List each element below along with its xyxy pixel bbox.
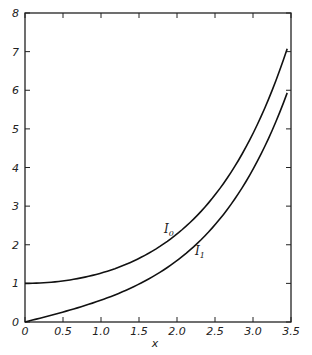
- series-label-i0: I0: [163, 222, 174, 238]
- x-tick-label: 1.0: [92, 325, 110, 338]
- x-tick-label: 0: [22, 325, 29, 338]
- y-tick-label: 3: [12, 200, 19, 213]
- series-label-i1: I1: [194, 244, 205, 260]
- bessel-chart: 00.51.01.52.02.53.03.5012345678 I0 I1 x: [0, 0, 312, 355]
- y-tick-label: 2: [12, 239, 19, 252]
- x-axis-label: x: [151, 337, 159, 350]
- axis-ticks: 00.51.01.52.02.53.03.5012345678: [12, 7, 300, 338]
- y-tick-label: 5: [12, 123, 19, 136]
- curves: [25, 49, 287, 322]
- y-tick-label: 6: [12, 84, 19, 97]
- plot-frame: [25, 13, 291, 322]
- x-tick-label: 2.0: [168, 325, 186, 338]
- y-tick-label: 7: [12, 46, 19, 59]
- y-tick-label: 1: [12, 277, 19, 290]
- x-tick-label: 2.5: [206, 325, 224, 338]
- y-tick-label: 8: [12, 7, 19, 20]
- curve-i0: [25, 49, 287, 284]
- curve-i1: [25, 93, 287, 322]
- x-tick-label: 3.0: [244, 325, 262, 338]
- x-tick-label: 3.5: [282, 325, 300, 338]
- x-tick-label: 0.5: [54, 325, 72, 338]
- x-tick-label: 1.5: [130, 325, 148, 338]
- y-tick-label: 0: [12, 316, 19, 329]
- y-tick-label: 4: [12, 162, 19, 175]
